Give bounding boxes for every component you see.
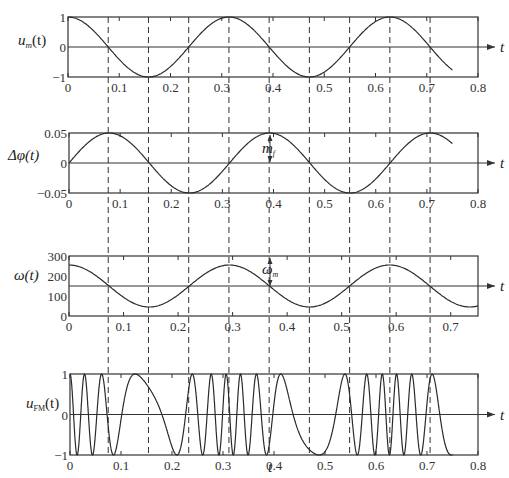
axis-arrow-icon (487, 283, 495, 289)
x-tick-label: 0.1 (111, 80, 127, 95)
x-tick-label: 0.2 (163, 196, 179, 211)
x-tick-label: 0.7 (419, 80, 436, 95)
panel-fm-signal: uFM(t) t t00.10.20.30.40.50.60.70.8−101 (26, 367, 505, 475)
y-tick-label: 0.05 (44, 126, 67, 141)
axis-arrow-icon (487, 412, 495, 418)
x-tick-label: 0.2 (162, 80, 178, 95)
p1-ylabel: um(t) (18, 32, 46, 50)
x-tick-label: 0.8 (470, 196, 486, 211)
x-tick-label: 0.6 (388, 319, 405, 334)
x-tick-label: 0.3 (224, 319, 240, 334)
x-tick-label: 0.4 (279, 319, 296, 334)
x-tick-label: 0.5 (316, 80, 332, 95)
mf-label: mf (262, 140, 277, 158)
x-tick-label: 0.6 (368, 458, 385, 473)
x-tick-label: 0.4 (265, 196, 282, 211)
panel-modulating-signal: um(t) t00.10.20.30.40.50.60.70.8−101 (18, 10, 505, 95)
y-tick-label: 100 (48, 289, 68, 304)
x-tick-label: 0.3 (215, 458, 231, 473)
x-tick-label: 0.1 (113, 458, 129, 473)
y-tick-label: −0.05 (37, 186, 67, 201)
t-axis-label: t (500, 407, 505, 423)
p3-ylabel: ω(t) (14, 267, 39, 284)
x-tick-label: 0.3 (214, 196, 230, 211)
x-tick-label: 0.2 (170, 319, 186, 334)
x-tick-label: 0.5 (334, 319, 350, 334)
t-axis-label: t (500, 278, 505, 294)
x-tick-label: 0.6 (367, 80, 384, 95)
x-tick-label: 0.8 (470, 458, 486, 473)
x-tick-label: 0.5 (317, 458, 333, 473)
x-tick-label: 0.3 (214, 80, 230, 95)
arrow-up-icon (268, 135, 273, 141)
x-tick-label: 0.6 (368, 196, 385, 211)
y-tick-label: 1 (60, 10, 67, 25)
y-tick-label: 0 (60, 40, 67, 55)
x-tick-label: 0.4 (265, 80, 282, 95)
panel-instantaneous-frequency: ω(t) t00.10.20.30.40.50.60.70100200300 (14, 249, 505, 334)
y-tick-label: 300 (48, 249, 68, 264)
y-tick-label: 0 (62, 408, 69, 423)
x-tick-label: 0.2 (164, 458, 180, 473)
x-tick-label: 0.7 (419, 458, 436, 473)
p2-ylabel: Δφ(t) (7, 147, 39, 164)
x-tick-label: 0.1 (112, 196, 128, 211)
p4-ylabel: uFM(t) (26, 395, 59, 413)
y-tick-label: 200 (48, 269, 68, 284)
x-tick-label: 0.1 (115, 319, 131, 334)
x-tick-label: 0.7 (419, 196, 436, 211)
t-axis-label: t (500, 39, 505, 55)
y-tick-label: −1 (52, 70, 66, 85)
t-axis-label: t (500, 155, 505, 171)
y-tick-label: 1 (62, 367, 69, 382)
y-tick-label: 0 (61, 156, 68, 171)
axis-arrow-icon (487, 44, 495, 50)
y-tick-label: −1 (54, 448, 68, 463)
x-tick-label: 0.8 (470, 80, 486, 95)
x-tick-label: 0.5 (317, 196, 333, 211)
fm-signal-figure: um(t) t00.10.20.30.40.50.60.70.8−101 Δφ(… (0, 0, 509, 478)
x-tick-label: 0.4 (266, 458, 283, 473)
y-tick-label: 0 (61, 309, 68, 324)
axis-arrow-icon (487, 160, 495, 166)
arrow-down-icon (268, 156, 273, 162)
x-tick-label: 0.7 (443, 319, 460, 334)
